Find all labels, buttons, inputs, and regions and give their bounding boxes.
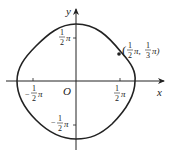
svg-text:1: 1 (146, 41, 150, 50)
svg-text:−: − (51, 118, 56, 127)
svg-text:2: 2 (58, 124, 62, 133)
svg-text:1: 1 (128, 41, 132, 50)
x-axis-label: x (156, 86, 162, 98)
svg-text:2: 2 (60, 38, 64, 47)
tick-label-x-neg: − 1 2 π (25, 84, 43, 103)
svg-text:1: 1 (58, 114, 62, 123)
tick-label-y-neg: − 1 2 π (51, 114, 69, 133)
svg-text:−: − (25, 90, 30, 99)
svg-text:π: π (38, 89, 43, 99)
svg-text:2: 2 (32, 94, 36, 103)
svg-text:1: 1 (60, 28, 64, 37)
svg-text:2: 2 (128, 51, 132, 60)
closed-curve-diagram: y x O 1 2 π − 1 2 π 1 2 π − 1 2 π ( 1 2 … (0, 0, 172, 162)
y-axis-label: y (65, 5, 71, 17)
origin-label: O (63, 85, 71, 97)
svg-text:π,: π, (134, 46, 141, 56)
svg-text:π: π (121, 89, 126, 99)
tick-label-x-pos: 1 2 π (114, 84, 126, 103)
tick-label-y-pos: 1 2 π (59, 28, 71, 47)
svg-text:(: ( (122, 43, 126, 58)
svg-text:2: 2 (115, 94, 119, 103)
svg-text:1: 1 (32, 84, 36, 93)
svg-text:π: π (66, 33, 71, 43)
svg-text:π: π (64, 119, 69, 129)
marked-point-label: ( 1 2 π, 1 3 π) (122, 41, 160, 60)
marked-point (117, 52, 121, 56)
svg-text:1: 1 (115, 84, 119, 93)
svg-text:3: 3 (146, 51, 150, 60)
svg-text:π): π) (152, 46, 160, 56)
